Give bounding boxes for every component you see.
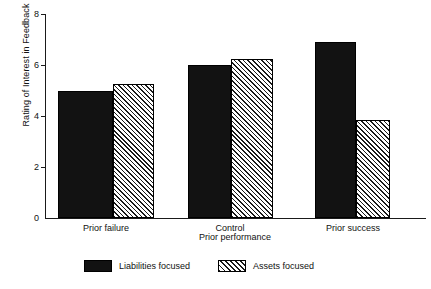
bar-chart-figure: Rating of Interest in Feedback 8 6 4 2 0 <box>0 0 431 289</box>
y-tick-2: 2 <box>45 167 46 168</box>
y-tick-label: 8 <box>34 10 39 19</box>
y-tick-mark <box>41 65 46 66</box>
y-tick-4: 4 <box>45 116 46 117</box>
y-tick-mark <box>41 167 46 168</box>
y-axis-title: Rating of Interest in Feedback <box>21 0 31 145</box>
y-tick-label: 4 <box>34 112 39 121</box>
plot-area: 8 6 4 2 0 Prior failure Control Prior su… <box>45 14 425 218</box>
legend-item-liabilities-focused: Liabilities focused <box>84 258 190 273</box>
y-tick-6: 6 <box>45 65 46 66</box>
bar-prior-success-liabilities <box>315 42 356 218</box>
y-tick-label: 6 <box>34 61 39 70</box>
x-axis-line <box>45 218 426 219</box>
y-tick-label: 0 <box>34 214 39 223</box>
y-tick-0: 0 <box>45 218 46 219</box>
bar-control-assets <box>231 59 273 218</box>
bar-prior-failure-liabilities <box>58 91 113 219</box>
legend-item-assets-focused: Assets focused <box>218 258 314 273</box>
legend-label: Liabilities focused <box>119 261 190 271</box>
bar-control-liabilities <box>188 65 231 218</box>
legend-label: Assets focused <box>253 261 314 271</box>
legend-swatch-solid-icon <box>84 260 112 272</box>
bar-prior-success-assets <box>356 120 390 218</box>
legend-swatch-hatched-icon <box>218 260 246 272</box>
bar-prior-failure-assets <box>113 84 154 218</box>
y-tick-mark <box>41 116 46 117</box>
y-tick-8: 8 <box>45 14 46 15</box>
x-axis-title: Prior performance <box>45 232 425 242</box>
chart-legend: Liabilities focused Assets focused <box>45 258 425 274</box>
y-tick-mark <box>41 14 46 15</box>
y-tick-label: 2 <box>34 163 39 172</box>
